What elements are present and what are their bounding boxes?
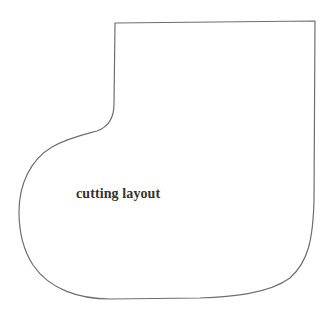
cutting-layout-label: cutting layout: [76, 186, 160, 202]
diagram-canvas: cutting layout: [0, 0, 334, 321]
boot-shape-path: [19, 21, 315, 299]
boot-outline: [0, 0, 334, 321]
